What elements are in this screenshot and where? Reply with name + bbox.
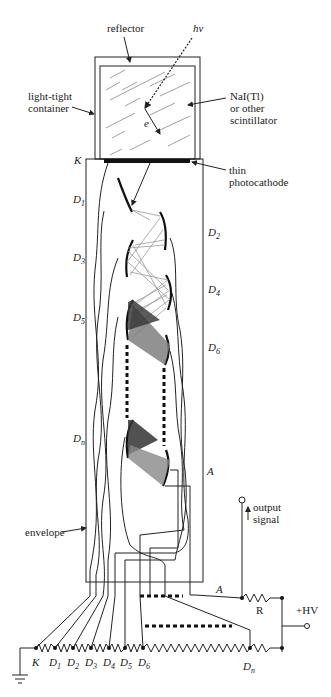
div-label-d3: D3 [84,656,97,671]
scintillator-label-2: or other [230,102,265,114]
container-label-2: container [28,102,69,114]
dynode-labels-left: D1 D3 D5 Dn [72,193,85,447]
output-terminal[interactable] [239,497,245,503]
dynode-labels-right: D2 D4 D6 A [206,226,220,477]
div-label-d5: D5 [119,656,132,671]
envelope-arrow [62,528,86,532]
div-label-dn: Dn [242,660,255,675]
hv-terminal[interactable] [305,624,310,629]
label-d6: D6 [207,341,220,356]
label-d2: D2 [207,226,220,241]
reflector-label: reflector [107,22,145,34]
scintillator-label-3: scintillator [230,114,277,126]
photomultiplier-tube-diagram: reflector hν light-tight container NaI(T… [0,0,331,697]
tube-envelope [86,159,203,582]
photocathode-label-2: photocathode [229,176,288,188]
cathode-label: K [73,154,82,166]
label-d5: D5 [72,311,85,326]
dynode-2 [160,212,166,250]
output-label-2: signal [253,513,279,525]
divider-labels: K D1 D2 D3 D4 D5 D6 Dn [31,656,255,675]
label-d3: D3 [72,251,85,266]
div-label-d1: D1 [48,656,61,671]
photon-path [145,38,192,108]
photocathode [104,159,190,163]
label-d1: D1 [72,193,85,208]
div-label-d2: D2 [66,656,79,671]
lead-wires [90,163,195,596]
divider-leads [36,596,250,648]
div-label-d4: D4 [102,656,115,671]
anode-lead [195,595,242,598]
reflector-arrow [124,37,130,62]
div-label-d6: D6 [137,656,150,671]
label-d4: D4 [207,283,220,298]
photocathode-arrow [192,162,226,170]
light-tight-container [95,57,200,159]
scintillator-arrow [188,98,226,105]
dynode-1 [118,178,132,212]
electron-label: e [144,117,149,129]
label-anode-side: A [206,465,214,477]
crystal-hatching [106,70,190,155]
envelope-label: envelope [25,526,65,538]
load-resistor [242,594,282,602]
electron-cloud-anode [128,445,170,486]
container-label-1: light-tight [28,90,72,102]
hv-label: +HV [296,604,318,616]
container-arrow [72,107,94,114]
dynode-chain [118,178,171,486]
output-label-1: output [253,501,281,513]
photon-label: hν [193,22,204,34]
label-dn: Dn [72,432,85,447]
resistor-label: R [256,604,264,616]
anode-label: A [215,583,223,595]
photoelectron-path [132,163,150,205]
photocathode-label-1: thin [229,164,247,176]
scintillator-assembly [95,38,200,159]
div-label-k: K [31,656,40,668]
